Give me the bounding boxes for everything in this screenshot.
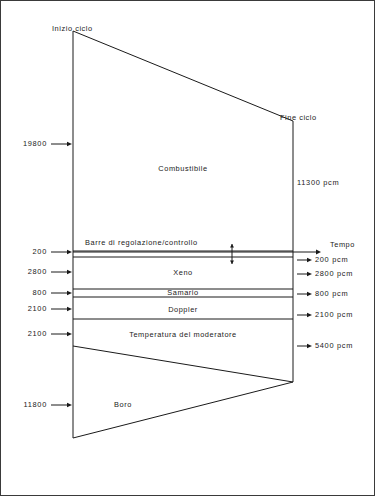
boro-lower-line [73,382,293,438]
left-value-moderatore: 2100 [28,330,47,337]
right-leader-arrows [297,258,312,349]
right-value-samario: 800 pcm [315,290,348,297]
region-label-xeno: Xeno [173,269,192,276]
region-label-moderatore: Temperatura del moderatore [129,331,237,338]
boro-upper-line [73,346,293,382]
left-leader-arrows [51,142,72,408]
right-value-doppler: 2100 pcm [315,311,353,318]
reactivity-balance-diagram [1,1,375,496]
left-value-combustibile: 19800 [23,140,47,147]
right-value-combustibile: 11300 pcm [297,179,339,186]
right-value-moderatore: 5400 pcm [315,342,353,349]
region-label-doppler: Doppler [168,306,198,313]
control-rod-marker-arrow-up [230,244,234,247]
right-value-xeno: 2800 pcm [315,270,353,277]
left-value-samario: 800 [33,289,47,296]
axis-label-tempo: Tempo [330,241,355,248]
tempo-axis-arrowhead [316,250,321,255]
control-rod-marker-arrow-down [230,261,234,264]
left-value-xeno: 2800 [28,268,47,275]
left-value-boro: 11800 [23,401,47,408]
left-value-doppler: 2100 [28,305,47,312]
label-fine-ciclo: Fine ciclo [280,114,317,121]
left-value-barre: 200 [33,248,47,255]
region-label-boro: Boro [114,401,132,408]
region-label-samario: Samario [167,289,198,296]
diagram-frame: Inizio ciclo Fine ciclo Combustibile Bar… [0,0,375,496]
top-slope-line [73,31,293,121]
label-inizio-ciclo: Inizio ciclo [52,25,93,32]
right-value-barre: 200 pcm [315,256,348,263]
region-label-combustibile: Combustibile [158,165,207,172]
region-label-barre: Barre di regolazione/controllo [85,239,198,246]
